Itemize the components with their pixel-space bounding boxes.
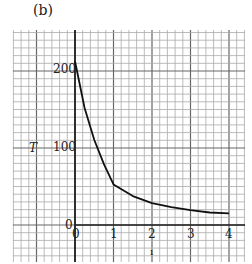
x-axis-label-mark: ı bbox=[150, 247, 153, 257]
y-axis-label: T bbox=[29, 142, 37, 154]
y-tick-100: 100 bbox=[53, 141, 76, 153]
x-tick-2: 2 bbox=[148, 228, 156, 240]
x-tick-1: 1 bbox=[110, 228, 118, 240]
line-chart bbox=[0, 0, 252, 264]
x-tick-3: 3 bbox=[187, 228, 195, 240]
x-tick-0: 0 bbox=[72, 228, 80, 240]
x-tick-4: 4 bbox=[225, 228, 233, 240]
y-tick-200: 200 bbox=[53, 63, 76, 75]
